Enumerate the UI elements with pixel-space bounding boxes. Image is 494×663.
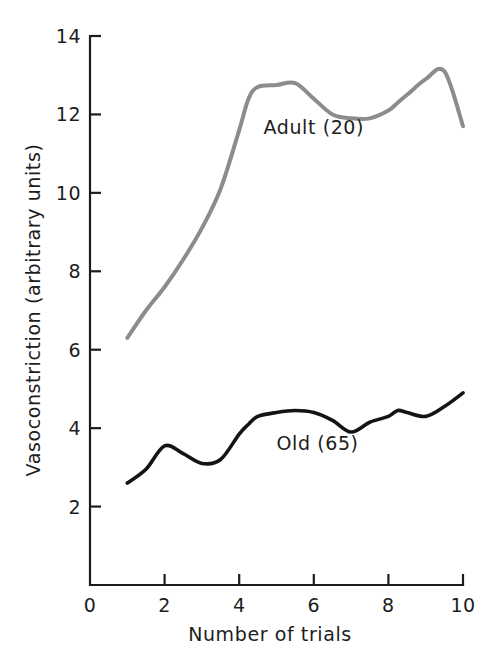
- chart-plot-area: Vasoconstriction (arbitrary units) Numbe…: [0, 0, 494, 663]
- x-axis-ticks: [165, 574, 463, 585]
- y-tick-label: 6: [68, 339, 81, 361]
- y-tick-label: 12: [56, 103, 81, 125]
- y-axis-ticks: [90, 36, 101, 507]
- chart-figure: Vasoconstriction (arbitrary units) Numbe…: [0, 0, 494, 663]
- series-annotations: Adult (20)Old (65): [264, 116, 365, 454]
- x-tick-label: 0: [84, 594, 97, 616]
- x-axis-title: Number of trials: [188, 623, 352, 645]
- y-tick-label: 2: [68, 496, 81, 518]
- x-tick-label: 8: [382, 594, 395, 616]
- x-tick-label: 6: [308, 594, 321, 616]
- y-axis-tick-labels: 2468101214: [56, 25, 81, 518]
- x-tick-label: 10: [450, 594, 475, 616]
- y-tick-label: 4: [68, 417, 81, 439]
- series-annotation-2: Old (65): [276, 432, 358, 454]
- y-tick-label: 14: [56, 25, 81, 47]
- x-tick-label: 2: [158, 594, 171, 616]
- y-axis-title: Vasoconstriction (arbitrary units): [22, 144, 44, 477]
- x-tick-label: 4: [233, 594, 246, 616]
- x-axis-tick-labels: 0246810: [84, 594, 476, 616]
- y-tick-label: 10: [56, 182, 81, 204]
- series-curve-1: [127, 69, 463, 338]
- series-annotation-1: Adult (20): [264, 116, 365, 138]
- y-tick-label: 8: [68, 260, 81, 282]
